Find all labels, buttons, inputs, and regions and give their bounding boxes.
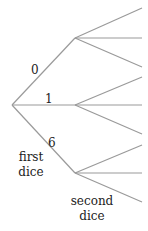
second-branch-1-2 [75, 105, 142, 134]
branch-label-1: 1 [45, 93, 53, 105]
branch-label-0: 0 [31, 64, 39, 76]
first-dice-label: first dice [14, 150, 48, 180]
second-branch-0-0 [75, 8, 142, 38]
second-dice-label-line2: dice [70, 209, 114, 224]
probability-tree-diagram: 0 1 6 first dice second dice [0, 0, 148, 231]
branch-label-6: 6 [48, 137, 56, 149]
second-dice-label: second dice [70, 194, 114, 224]
first-dice-label-line1: first [14, 150, 48, 165]
second-branch-6-0 [75, 145, 142, 173]
first-dice-label-line2: dice [14, 165, 48, 180]
second-branch-1-0 [75, 77, 142, 105]
first-branch-0 [12, 38, 75, 105]
second-branch-0-2 [75, 38, 142, 67]
second-dice-label-line1: second [70, 194, 114, 209]
